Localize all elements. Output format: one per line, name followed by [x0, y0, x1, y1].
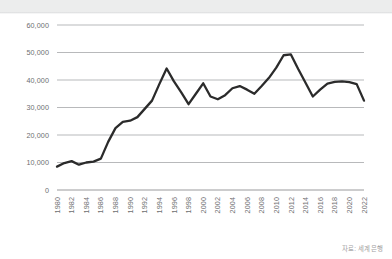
x-axis-tick-label: 1986 [96, 197, 105, 213]
x-axis-tick-label: 2014 [301, 197, 310, 213]
x-axis-tick-label: 2008 [257, 197, 266, 213]
x-axis-tick-label: 1980 [53, 197, 62, 213]
x-axis-tick-label: 2010 [272, 197, 281, 213]
x-axis-tick-label: 2000 [199, 197, 208, 213]
y-axis-tick-label: 60,000 [26, 21, 49, 30]
y-axis-tick-label: 10,000 [26, 158, 49, 167]
y-axis-tick-label: 20,000 [26, 131, 49, 140]
x-axis-tick-label: 1994 [155, 197, 164, 213]
x-axis-tick-label: 1988 [111, 197, 120, 213]
chart-figure: 60,00050,00040,00030,00020,00010,0000 19… [0, 0, 392, 259]
x-axis-tick-label: 2022 [360, 197, 369, 213]
x-axis-tick-label: 1996 [170, 197, 179, 213]
y-axis-tick-label: 40,000 [26, 76, 49, 85]
x-axis-tick-label: 1998 [184, 197, 193, 213]
x-axis-tick-label: 2012 [287, 197, 296, 213]
x-axis-tick-label: 2020 [345, 197, 354, 213]
x-axis-tick-label: 2018 [330, 197, 339, 213]
source-note: 자료: 세계은행 [342, 244, 383, 253]
x-axis-tick-label: 2004 [228, 197, 237, 213]
y-axis-tick-label: 0 [45, 186, 49, 195]
x-axis-tick-label: 2016 [316, 197, 325, 213]
y-axis-tick-label: 50,000 [26, 48, 49, 57]
x-axis-tick-label: 1982 [67, 197, 76, 213]
x-axis-tick-label: 1984 [82, 197, 91, 213]
x-axis-tick-labels: 1980198219841986198819901992199419961998… [53, 197, 369, 213]
gridlines-group [57, 25, 364, 190]
x-axis-tick-label: 1990 [126, 197, 135, 213]
y-axis-tick-label: 30,000 [26, 103, 49, 112]
data-series-group [57, 54, 364, 166]
y-axis-tick-labels: 60,00050,00040,00030,00020,00010,0000 [26, 21, 49, 195]
data-line-series-1 [57, 54, 364, 166]
x-axis-tick-label: 1992 [140, 197, 149, 213]
x-axis-tick-label: 2002 [213, 197, 222, 213]
x-axis-tick-label: 2006 [243, 197, 252, 213]
line-chart: 60,00050,00040,00030,00020,00010,0000 19… [0, 0, 392, 259]
